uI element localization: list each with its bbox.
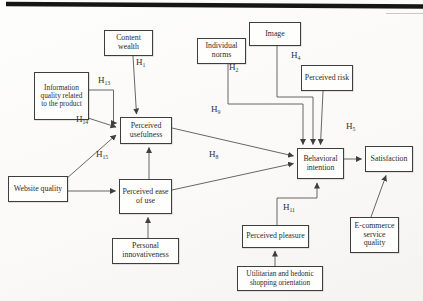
node-information-quality: Information quality related to the produ… bbox=[34, 72, 89, 120]
node-label: Personal innovativeness bbox=[115, 242, 176, 259]
hypothesis-label-h8: H8 bbox=[209, 150, 218, 161]
node-image: Image bbox=[249, 22, 301, 46]
node-perceived-risk: Perceived risk bbox=[301, 65, 353, 91]
hypothesis-label-h13: H13 bbox=[98, 76, 110, 87]
edge-website-quality-to-usefulness-h15 bbox=[66, 135, 116, 179]
hypothesis-label-h14: H14 bbox=[76, 115, 88, 126]
node-label: Satisfaction bbox=[371, 155, 408, 164]
node-satisfaction: Satisfaction bbox=[365, 146, 413, 172]
edge-norms-to-intention-h2-h9 bbox=[228, 64, 303, 145]
node-label: E-commerce service quality bbox=[353, 222, 396, 248]
node-website-quality: Website quality bbox=[8, 176, 68, 202]
edge-risk-to-intention bbox=[321, 91, 324, 145]
node-ecommerce-service-quality: E-commerce service quality bbox=[350, 217, 399, 253]
node-personal-innovativeness: Personal innovativeness bbox=[112, 238, 179, 264]
research-model-diagram: Website quality Information quality rela… bbox=[0, 0, 423, 301]
hypothesis-label-h15: H15 bbox=[96, 150, 108, 161]
node-individual-norms: Individual norms bbox=[197, 38, 246, 64]
page-top-rule bbox=[6, 4, 423, 7]
node-perceived-ease-of-use: Perceived ease of use bbox=[119, 179, 172, 214]
edge-info-quality-to-usefulness-h13 bbox=[88, 90, 117, 123]
node-label: Utilitarian and hedonic shopping orienta… bbox=[240, 270, 320, 286]
hypothesis-label-h11: H11 bbox=[283, 203, 295, 214]
node-label: Information quality related to the produ… bbox=[37, 84, 86, 109]
edge-usefulness-to-intention bbox=[172, 128, 294, 156]
hypothesis-label-h9: H9 bbox=[211, 105, 220, 116]
node-label: Website quality bbox=[14, 185, 63, 194]
edge-info-quality-to-usefulness-h14 bbox=[88, 118, 116, 127]
node-label: Perceived usefulness bbox=[123, 122, 169, 139]
hypothesis-label-h1: H1 bbox=[136, 58, 145, 69]
hypothesis-label-h5: H5 bbox=[346, 122, 355, 133]
node-utilitarian-hedonic: Utilitarian and hedonic shopping orienta… bbox=[237, 266, 323, 291]
edge-ecommerce-to-satisfaction bbox=[371, 176, 386, 218]
node-perceived-pleasure: Perceived pleasure bbox=[242, 225, 309, 248]
node-behavioral-intention: Behavioral intention bbox=[297, 148, 344, 179]
node-content-wealth: Content wealth bbox=[104, 30, 153, 56]
node-label: Perceived pleasure bbox=[246, 232, 305, 241]
node-label: Perceived risk bbox=[305, 74, 349, 83]
node-label: Content wealth bbox=[107, 34, 150, 51]
hypothesis-label-h4: H4 bbox=[291, 51, 300, 62]
node-label: Perceived ease of use bbox=[122, 188, 169, 205]
node-label: Image bbox=[265, 30, 284, 39]
hypothesis-label-h2: H2 bbox=[229, 63, 238, 74]
edge-ease-of-use-to-intention-h8 bbox=[172, 164, 294, 191]
node-label: Individual norms bbox=[200, 42, 243, 59]
node-perceived-usefulness: Perceived usefulness bbox=[120, 117, 172, 144]
node-label: Behavioral intention bbox=[300, 155, 341, 172]
